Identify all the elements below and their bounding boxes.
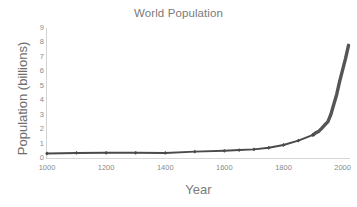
data-point-marker: [163, 151, 167, 155]
data-point-marker: [193, 150, 197, 154]
series-line-modern-segment: [313, 45, 348, 135]
data-point-marker: [134, 151, 138, 155]
data-point-marker: [237, 148, 241, 152]
data-point-marker: [75, 151, 79, 155]
chart-plot-series: [0, 0, 357, 207]
chart-figure: World Population Population (billions) Y…: [0, 0, 357, 207]
data-point-marker: [104, 151, 108, 155]
series-line-world-population: [47, 45, 349, 153]
data-point-marker: [45, 152, 49, 156]
data-point-marker: [267, 146, 271, 150]
data-point-marker: [222, 149, 226, 153]
data-point-marker: [252, 147, 256, 151]
